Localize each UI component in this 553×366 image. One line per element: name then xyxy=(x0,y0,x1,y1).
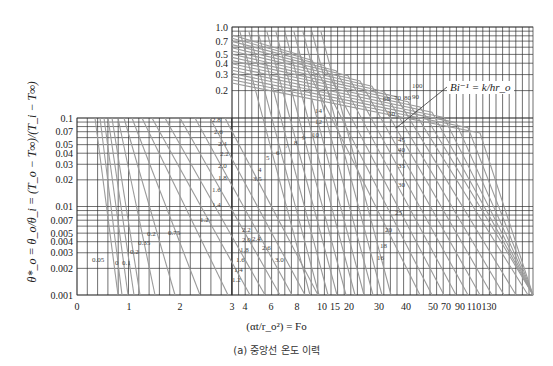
curve-label: 70 xyxy=(394,94,402,102)
curve-label: 1.4 xyxy=(234,266,243,274)
curve-label: 1.2 xyxy=(232,276,241,284)
curve-label: 9 xyxy=(302,134,306,142)
curve-label: 2.4 xyxy=(218,140,227,148)
curve-label: 1.6 xyxy=(212,186,221,194)
curve-label: 1.8 xyxy=(240,246,249,254)
x-tick: 6 xyxy=(269,301,274,312)
curve-label: 2.0 xyxy=(218,162,227,170)
curve-label: 10 xyxy=(312,131,320,139)
x-tick: 0 xyxy=(75,301,80,312)
x-tick: 90 xyxy=(455,301,465,312)
curve-label: 80 xyxy=(404,94,412,102)
x-tick: 30 xyxy=(374,301,384,312)
x-tick: 1 xyxy=(127,301,132,312)
curve-label: 0 xyxy=(115,259,119,267)
curve-label: 90 xyxy=(412,93,420,101)
curve-label: 0.2 xyxy=(147,230,156,238)
x-tick: 130 xyxy=(482,301,497,312)
chart-curves xyxy=(95,32,533,295)
x-tick: 2 xyxy=(178,301,183,312)
figure-caption: (a) 중앙선 온도 이력 xyxy=(0,342,553,357)
curve-label: 2.0 xyxy=(242,236,251,244)
curve-labels: 00.050.10.20.350.20.751.21.41.61.82.02.2… xyxy=(92,82,423,284)
y-tick: 0.02 xyxy=(56,174,74,185)
curve-label: 18 xyxy=(380,242,388,250)
y-tick: 0.2 xyxy=(216,85,229,96)
y-tick: 0.001 xyxy=(51,290,74,301)
curve-label: 30 xyxy=(398,181,406,189)
curve-label: 12 xyxy=(315,118,323,126)
y-tick: 1.0 xyxy=(216,22,229,33)
curve-label: 0.05 xyxy=(92,256,105,264)
curve-label: 3.0 xyxy=(275,256,284,264)
curve-label: 25 xyxy=(395,209,403,217)
curve-label: 60 xyxy=(383,95,391,103)
curve-label: 40 xyxy=(398,146,406,154)
x-tick: 15 xyxy=(330,301,340,312)
curve-label: 35 xyxy=(398,162,406,170)
curve-label: 2.6 xyxy=(262,244,271,252)
x-tick: 8 xyxy=(295,301,300,312)
x-tick: 3 xyxy=(230,301,235,312)
curve-label: 1.4 xyxy=(212,201,221,209)
curve-label: 4 xyxy=(258,166,262,174)
chart-grid xyxy=(77,27,533,295)
curve-label: 2.8 xyxy=(212,116,221,124)
curve-label: 14 xyxy=(315,107,323,115)
curve-label: 7 xyxy=(285,142,289,150)
curve-label: 2.2 xyxy=(242,226,251,234)
y-tick: 0.007 xyxy=(51,215,74,226)
curve-label: 2.4 xyxy=(252,235,261,243)
x-tick: 20 xyxy=(344,301,354,312)
curve-label: 45 xyxy=(398,136,406,144)
x-tick: 50 xyxy=(428,301,438,312)
curve-label: 0.35 xyxy=(138,239,151,247)
y-axis-label: θ*_o = θ_o/θ_i = (T_o − T∞)/(T_i − T∞) xyxy=(25,143,40,283)
curve-label: 0.2 xyxy=(130,248,139,256)
curve-label: 1.6 xyxy=(236,256,245,264)
x-tick: 40 xyxy=(401,301,411,312)
x-tick: 70 xyxy=(441,301,451,312)
y-tick: 0.7 xyxy=(216,36,229,47)
y-tick: 0.4 xyxy=(216,58,229,69)
y-tick: 0.04 xyxy=(56,148,74,159)
curve-label: 16 xyxy=(377,254,385,262)
x-tick: 4 xyxy=(243,301,248,312)
curve-label: 50 xyxy=(388,110,396,118)
y-tick: 0.003 xyxy=(51,247,74,258)
curve-label: 6 xyxy=(276,149,280,157)
curve-label: 0.1 xyxy=(122,259,131,267)
y-tick: 0.01 xyxy=(56,201,74,212)
curve-label: 1.2 xyxy=(200,216,209,224)
y-tick: 0.03 xyxy=(56,159,74,170)
curve-label: 2.2 xyxy=(220,150,229,158)
parameter-label: Bi⁻¹ = k/hr_o xyxy=(447,81,514,94)
curve-label: 20 xyxy=(385,226,393,234)
y-tick: 0.1 xyxy=(61,113,74,124)
x-tick: 10 xyxy=(317,301,327,312)
y-tick: 0.07 xyxy=(56,126,74,137)
y-tick: 0.002 xyxy=(51,263,74,274)
curve-label: 3.5 xyxy=(253,175,262,183)
curve-label: 5 xyxy=(266,154,270,162)
curve-label: 100 xyxy=(412,82,423,90)
y-tick: 0.3 xyxy=(216,69,229,80)
heisler-chart: 1.00.70.50.40.30.20.10.070.050.040.030.0… xyxy=(0,0,553,366)
curve-label: 0.75 xyxy=(168,229,181,237)
x-axis-label: (αt/r_o²) = Fo xyxy=(0,320,553,332)
curve-label: 2.6 xyxy=(214,128,223,136)
y-tick: 0.004 xyxy=(51,236,74,247)
curve-label: 1.8 xyxy=(218,174,227,182)
x-tick: 110 xyxy=(467,301,482,312)
x-axis-ticks: 01234681015203040507090110130 xyxy=(75,301,497,312)
curve-label: 8 xyxy=(294,139,298,147)
